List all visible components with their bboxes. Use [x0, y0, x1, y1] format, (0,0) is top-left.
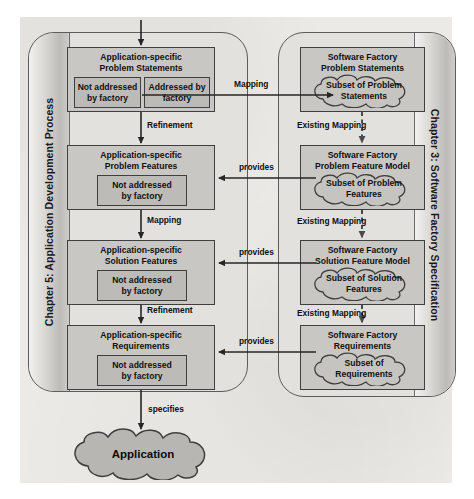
subbox-line1: Addressed by [149, 82, 206, 93]
box-title-line2: Solution Feature Model [301, 256, 424, 267]
cloud-text: Subset of Problem Features [320, 178, 408, 200]
subbox-text: Not addressed by factory [112, 180, 172, 202]
edge-label-provides-1: provides [239, 162, 274, 172]
box-title-line1: Software Factory [301, 330, 424, 341]
box-title-line1: Application-specific [68, 330, 214, 341]
box-title: Application-specific Problem Statements [68, 52, 214, 74]
subbox-not-addressed-by-factory[interactable]: Not addressed by factory [74, 77, 141, 108]
edge-label-refinement-1: Refinement [147, 120, 193, 130]
box-title: Application-specific Solution Features [68, 245, 214, 267]
subbox-not-addressed-by-factory[interactable]: Not addressed by factory [97, 355, 187, 386]
box-title-line2: Solution Features [68, 256, 214, 267]
diagram-canvas: Chapter 5: Application Development Proce… [0, 0, 474, 499]
box-title-line2: Requirements [301, 341, 424, 352]
subbox-line2: by factory [112, 371, 172, 382]
lane-right-label: Chapter 3: Software Factory Specificatio… [429, 108, 441, 320]
cloud-line1: Subset of Problem [326, 80, 402, 91]
box-title: Application-specific Problem Features [68, 150, 214, 172]
lane-left-label: Chapter 5: Application Development Proce… [43, 98, 55, 326]
cloud-subset-of-requirements[interactable]: Subset of Requirements [309, 352, 419, 386]
subbox-line1: Not addressed [78, 82, 138, 93]
box-title-line1: Software Factory [301, 245, 424, 256]
edge-label-existing-mapping-3: Existing Mapping [297, 308, 366, 318]
subbox-text: Addressed by factory [149, 82, 206, 104]
cloud-line2: Features [326, 284, 402, 295]
edge-label-provides-3: provides [239, 336, 274, 346]
cloud-text: Subset of Solution Features [320, 273, 408, 295]
edge-label-existing-mapping-1: Existing Mapping [297, 120, 366, 130]
box-title-line1: Software Factory [301, 52, 424, 63]
box-application-specific-solution-features[interactable]: Application-specific Solution Features N… [67, 240, 215, 305]
box-title-line2: Problem Statements [301, 63, 424, 74]
application-label: Application [112, 448, 175, 460]
box-title-line1: Application-specific [68, 245, 214, 256]
box-software-factory-requirements[interactable]: Software Factory Requirements Subset of … [300, 325, 425, 390]
edge-label-specifies: specifies [148, 404, 184, 414]
box-software-factory-problem-statements[interactable]: Software Factory Problem Statements Subs… [300, 47, 425, 112]
cloud-subset-of-problem-features[interactable]: Subset of Problem Features [309, 172, 419, 206]
subbox-line1: Not addressed [112, 180, 172, 191]
edge-label-mapping-cross: Mapping [234, 79, 268, 89]
subbox-addressed-by-factory[interactable]: Addressed by factory [144, 77, 210, 108]
cloud-line1: Subset of Solution [326, 273, 402, 284]
subbox-line2: by factory [112, 286, 172, 297]
cloud-text: Subset of Problem Statements [320, 80, 408, 102]
subbox-line2: by factory [112, 191, 172, 202]
box-application-specific-problem-statements[interactable]: Application-specific Problem Statements … [67, 47, 215, 112]
subbox-not-addressed-by-factory[interactable]: Not addressed by factory [97, 175, 187, 206]
box-title: Software Factory Solution Feature Model [301, 245, 424, 267]
box-application-specific-problem-features[interactable]: Application-specific Problem Features No… [67, 145, 215, 210]
box-title: Application-specific Requirements [68, 330, 214, 352]
subbox-text: Not addressed by factory [78, 82, 138, 104]
box-title: Software Factory Problem Statements [301, 52, 424, 74]
lane-left-title-strip: Chapter 5: Application Development Proce… [29, 33, 70, 391]
cloud-subset-of-solution-features[interactable]: Subset of Solution Features [309, 267, 419, 301]
cloud-line2: Statements [326, 91, 402, 102]
edge-label-existing-mapping-2: Existing Mapping [297, 216, 366, 226]
cloud-line2: Requirements [335, 369, 392, 380]
node-application[interactable]: Application [68, 428, 218, 480]
subbox-line1: Not addressed [112, 275, 172, 286]
box-software-factory-solution-feature-model[interactable]: Software Factory Solution Feature Model … [300, 240, 425, 305]
box-title-line1: Application-specific [68, 52, 214, 63]
subbox-not-addressed-by-factory[interactable]: Not addressed by factory [97, 270, 187, 301]
box-title-line2: Requirements [68, 341, 214, 352]
box-title-line1: Application-specific [68, 150, 214, 161]
box-title: Software Factory Requirements [301, 330, 424, 352]
edge-label-mapping-left: Mapping [147, 215, 181, 225]
cloud-subset-of-problem-statements[interactable]: Subset of Problem Statements [309, 74, 419, 108]
box-title-line2: Problem Feature Model [301, 161, 424, 172]
subbox-text: Not addressed by factory [112, 360, 172, 382]
subbox-line1: Not addressed [112, 360, 172, 371]
subbox-line2: by factory [78, 93, 138, 104]
subbox-line2: factory [149, 93, 206, 104]
cloud-line1: Subset of [335, 358, 392, 369]
cloud-line2: Features [326, 189, 402, 200]
box-title: Software Factory Problem Feature Model [301, 150, 424, 172]
box-application-specific-requirements[interactable]: Application-specific Requirements Not ad… [67, 325, 215, 390]
subbox-text: Not addressed by factory [112, 275, 172, 297]
box-title-line2: Problem Features [68, 161, 214, 172]
box-title-line2: Problem Statements [68, 63, 214, 74]
box-software-factory-problem-feature-model[interactable]: Software Factory Problem Feature Model S… [300, 145, 425, 210]
box-title-line1: Software Factory [301, 150, 424, 161]
cloud-line1: Subset of Problem [326, 178, 402, 189]
edge-label-provides-2: provides [239, 247, 274, 257]
cloud-text: Subset of Requirements [329, 358, 398, 380]
edge-label-refinement-2: Refinement [147, 305, 193, 315]
